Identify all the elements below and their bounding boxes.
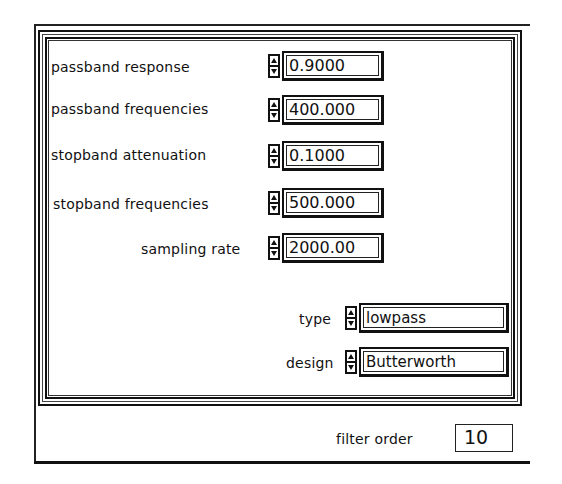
passband-frequencies-input[interactable]: 400.000 (282, 95, 384, 125)
increment-arrow-icon[interactable] (270, 193, 278, 202)
increment-arrow-icon[interactable] (270, 100, 278, 109)
passband-response-control: 0.9000 (268, 51, 386, 81)
type-label: type (299, 310, 331, 328)
decrement-arrow-icon[interactable] (347, 363, 355, 372)
decrement-arrow-icon[interactable] (270, 157, 278, 166)
design-ring-selector[interactable]: Butterworth (359, 347, 509, 377)
increment-decrement-arrows-icon[interactable] (345, 306, 357, 330)
passband-frequencies-control: 400.000 (268, 95, 386, 125)
increment-arrow-icon[interactable] (347, 352, 355, 361)
passband-frequencies-label: passband frequencies (51, 100, 208, 118)
increment-arrow-icon[interactable] (270, 146, 278, 155)
outer-panel-top-border (34, 24, 530, 26)
decrement-arrow-icon[interactable] (270, 67, 278, 76)
stopband-attenuation-label: stopband attenuation (51, 146, 206, 164)
sampling-rate-control: 2000.00 (268, 233, 386, 263)
stopband-frequencies-input[interactable]: 500.000 (282, 188, 384, 218)
stopband-frequencies-label: stopband frequencies (53, 195, 209, 213)
sampling-rate-input[interactable]: 2000.00 (282, 233, 384, 263)
design-label: design (286, 354, 334, 372)
increment-decrement-arrows-icon[interactable] (268, 54, 280, 78)
decrement-arrow-icon[interactable] (347, 319, 355, 328)
decrement-arrow-icon[interactable] (270, 204, 278, 213)
increment-arrow-icon[interactable] (270, 238, 278, 247)
increment-decrement-arrows-icon[interactable] (268, 98, 280, 122)
design-ring-control: Butterworth (345, 347, 509, 377)
increment-decrement-arrows-icon[interactable] (268, 191, 280, 215)
decrement-arrow-icon[interactable] (270, 249, 278, 258)
filter-order-indicator: 10 (455, 424, 513, 452)
stopband-frequencies-control: 500.000 (268, 188, 386, 218)
stopband-attenuation-control: 0.1000 (268, 141, 386, 171)
passband-response-input[interactable]: 0.9000 (282, 51, 384, 81)
increment-arrow-icon[interactable] (347, 308, 355, 317)
increment-decrement-arrows-icon[interactable] (268, 236, 280, 260)
passband-response-label: passband response (51, 58, 190, 76)
increment-decrement-arrows-icon[interactable] (268, 144, 280, 168)
outer-panel-bottom-border (34, 461, 530, 464)
type-ring-selector[interactable]: lowpass (359, 303, 509, 333)
filter-order-label: filter order (336, 430, 413, 448)
type-ring-control: lowpass (345, 303, 509, 333)
increment-arrow-icon[interactable] (270, 56, 278, 65)
increment-decrement-arrows-icon[interactable] (345, 350, 357, 374)
decrement-arrow-icon[interactable] (270, 111, 278, 120)
sampling-rate-label: sampling rate (141, 240, 240, 258)
outer-panel-left-border (34, 24, 36, 464)
stopband-attenuation-input[interactable]: 0.1000 (282, 141, 384, 171)
